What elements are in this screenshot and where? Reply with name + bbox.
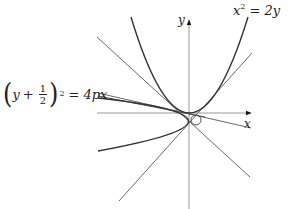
eq-top-rhs: = 2y [250, 3, 281, 18]
eq-left-frac-num: 1 [39, 83, 47, 95]
y-axis-label: y [178, 14, 185, 26]
eq-left-frac-den: 2 [40, 95, 46, 106]
parabola-sideways [98, 98, 189, 151]
equation-upward-parabola: x2 = 2y [233, 3, 280, 17]
eq-left-fraction: 1 2 [39, 83, 47, 106]
origin-circle [191, 115, 201, 125]
equation-sideways-parabola: ( y + 1 2 ) 2 = 4px [3, 82, 107, 106]
tangent-line-steep-negative [97, 37, 250, 177]
eq-left-exp: 2 [59, 90, 64, 98]
tangent-line-shallow-1 [98, 93, 251, 128]
eq-top-exp: 2 [240, 2, 245, 11]
eq-left-open-paren: ( [3, 80, 12, 108]
x-axis-label: x [244, 118, 251, 130]
eq-left-var: y [12, 88, 19, 101]
eq-left-close-paren: ) [49, 80, 58, 108]
eq-left-plus: + [23, 88, 34, 101]
eq-left-rhs: = 4px [68, 88, 107, 101]
